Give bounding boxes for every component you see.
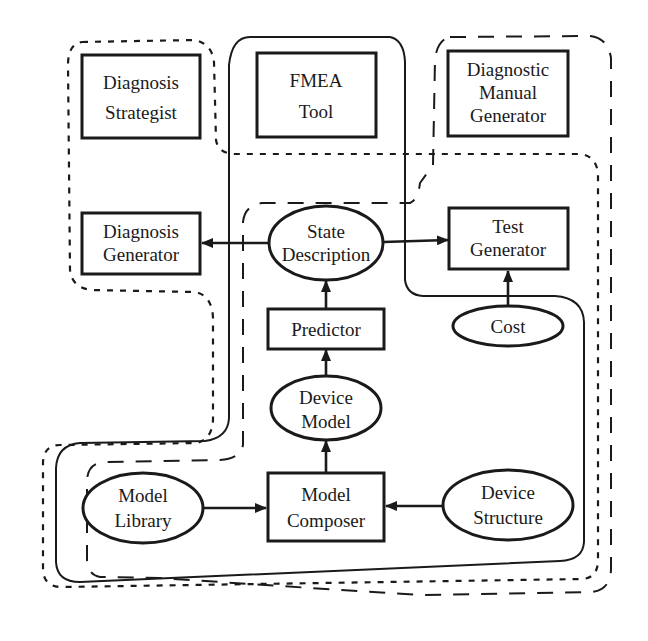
svg-text:Tool: Tool — [299, 101, 334, 122]
node-diagnosis-generator: Diagnosis Generator — [82, 213, 200, 274]
node-fmea-tool: FMEA Tool — [257, 53, 376, 137]
svg-text:Structure: Structure — [473, 507, 543, 528]
node-predictor: Predictor — [268, 309, 384, 349]
svg-text:Composer: Composer — [287, 510, 366, 531]
svg-text:Predictor: Predictor — [291, 319, 361, 340]
svg-text:State: State — [307, 221, 345, 242]
node-cost: Cost — [453, 306, 563, 346]
node-model-composer: Model Composer — [268, 473, 384, 541]
architecture-diagram: Diagnosis Strategist FMEA Tool Diagnosti… — [0, 0, 648, 641]
svg-text:Model: Model — [301, 484, 351, 505]
svg-text:Generator: Generator — [470, 239, 547, 260]
svg-text:Diagnostic: Diagnostic — [467, 59, 549, 80]
svg-text:Model: Model — [118, 485, 168, 506]
svg-text:Generator: Generator — [470, 105, 547, 126]
node-device-model: Device Model — [271, 376, 381, 440]
svg-text:Library: Library — [115, 510, 172, 531]
svg-text:Diagnosis: Diagnosis — [103, 221, 179, 242]
node-model-library: Model Library — [83, 473, 203, 543]
node-diagnostic-manual-generator: Diagnostic Manual Generator — [448, 51, 568, 136]
svg-text:Strategist: Strategist — [105, 102, 177, 123]
node-diagnosis-strategist: Diagnosis Strategist — [82, 55, 200, 138]
svg-text:Cost: Cost — [491, 316, 527, 337]
svg-text:Test: Test — [492, 216, 524, 237]
svg-text:Manual: Manual — [479, 82, 537, 103]
svg-text:Generator: Generator — [103, 244, 180, 265]
svg-text:Diagnosis: Diagnosis — [103, 72, 179, 93]
node-test-generator: Test Generator — [449, 208, 568, 269]
svg-text:Device: Device — [299, 387, 353, 408]
svg-text:Description: Description — [282, 244, 371, 265]
node-state-description: State Description — [269, 206, 383, 280]
node-device-structure: Device Structure — [443, 470, 573, 540]
svg-text:Device: Device — [481, 482, 535, 503]
edge-state-to-test-generator — [383, 240, 448, 242]
svg-text:FMEA: FMEA — [290, 70, 343, 91]
svg-text:Model: Model — [301, 411, 351, 432]
